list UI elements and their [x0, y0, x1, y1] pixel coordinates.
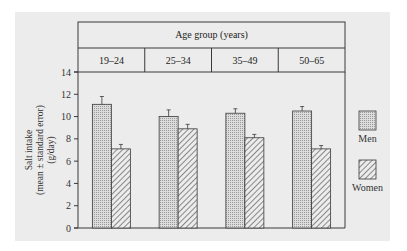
y-tick-label: 10: [61, 111, 71, 122]
bar-women: [245, 138, 264, 228]
age-group-label: 50–65: [299, 55, 324, 66]
bar-women: [178, 129, 197, 228]
y-axis-label-line: Salt intake: [24, 130, 34, 170]
bar-men: [293, 111, 312, 228]
bar-women: [312, 149, 331, 228]
legend-label-men: Men: [358, 133, 376, 144]
bar-men: [159, 117, 178, 228]
y-tick-label: 12: [61, 89, 71, 100]
bar-men: [92, 104, 111, 228]
age-group-header: Age group (years)19–2425–3435–4950–65: [78, 22, 345, 72]
legend-label-women: Women: [352, 182, 383, 193]
y-tick-label: 0: [66, 223, 71, 234]
y-axis-label-line: (g/day): [46, 136, 57, 163]
y-tick-label: 2: [66, 200, 71, 211]
legend-swatch-men: [359, 111, 376, 130]
age-group-label: 25–34: [166, 55, 191, 66]
legend-swatch-women: [359, 160, 376, 179]
y-axis-label-line: (mean ± standard error): [35, 105, 46, 195]
bar-women: [111, 149, 130, 228]
bar-men: [226, 113, 245, 228]
legend: MenWomen: [352, 111, 383, 193]
y-axis-label: Salt intake(mean ± standard error)(g/day…: [24, 105, 57, 195]
y-tick-label: 4: [66, 178, 71, 189]
age-group-label: 35–49: [232, 55, 257, 66]
y-tick-label: 6: [66, 156, 71, 167]
bars: [92, 97, 330, 228]
y-tick-label: 8: [66, 133, 71, 144]
age-group-label: 19–24: [99, 55, 124, 66]
y-tick-label: 14: [61, 67, 71, 78]
salt-intake-bar-chart: Age group (years)19–2425–3435–4950–65 02…: [0, 0, 407, 251]
header-title: Age group (years): [175, 29, 248, 41]
